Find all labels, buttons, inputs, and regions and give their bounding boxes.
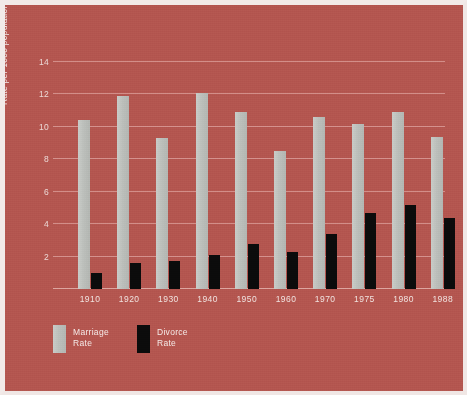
bar-marriage-1920 bbox=[117, 96, 129, 289]
bar-group-1930 bbox=[156, 62, 180, 289]
x-tick-label-1940: 1940 bbox=[197, 294, 218, 304]
x-tick-label-1910: 1910 bbox=[80, 294, 101, 304]
y-tick-label-4: 4 bbox=[44, 219, 49, 229]
bar-divorce-1980 bbox=[405, 205, 416, 289]
bar-divorce-1930 bbox=[169, 261, 180, 289]
marriage-swatch bbox=[53, 325, 66, 353]
bar-divorce-1960 bbox=[287, 252, 298, 289]
divorce-swatch bbox=[137, 325, 150, 353]
x-axis-tick-labels: 1910192019301940195019601970197519801988 bbox=[53, 294, 445, 310]
bar-marriage-1975 bbox=[352, 124, 364, 289]
bar-marriage-1940 bbox=[196, 93, 208, 289]
bar-marriage-1950 bbox=[235, 112, 247, 289]
bar-marriage-1970 bbox=[313, 117, 325, 289]
bar-marriage-1980 bbox=[392, 112, 404, 289]
bar-group-1988 bbox=[431, 62, 455, 289]
bar-divorce-1910 bbox=[91, 273, 102, 289]
x-tick-label-1920: 1920 bbox=[119, 294, 140, 304]
bar-group-1920 bbox=[117, 62, 141, 289]
bar-group-1980 bbox=[392, 62, 416, 289]
bar-group-1975 bbox=[352, 62, 376, 289]
y-tick-label-14: 14 bbox=[39, 57, 49, 67]
x-tick-label-1930: 1930 bbox=[158, 294, 179, 304]
bar-group-1940 bbox=[196, 62, 220, 289]
plot-area bbox=[53, 62, 445, 289]
bar-group-1950 bbox=[235, 62, 259, 289]
x-tick-label-1980: 1980 bbox=[393, 294, 414, 304]
y-axis-tick-labels: 2468101214 bbox=[29, 62, 49, 289]
bar-divorce-1970 bbox=[326, 234, 337, 289]
y-tick-label-8: 8 bbox=[44, 154, 49, 164]
y-tick-label-12: 12 bbox=[39, 89, 49, 99]
x-tick-label-1975: 1975 bbox=[354, 294, 375, 304]
x-tick-label-1970: 1970 bbox=[315, 294, 336, 304]
bar-divorce-1975 bbox=[365, 213, 376, 289]
bar-divorce-1988 bbox=[444, 218, 455, 289]
bar-marriage-1910 bbox=[78, 120, 90, 289]
y-tick-label-6: 6 bbox=[44, 187, 49, 197]
y-tick-label-10: 10 bbox=[39, 122, 49, 132]
legend-item-marriage: Marriage Rate bbox=[53, 325, 109, 353]
legend-label-marriage: Marriage Rate bbox=[73, 325, 109, 349]
bar-group-1960 bbox=[274, 62, 298, 289]
legend-item-divorce: Divorce Rate bbox=[137, 325, 188, 353]
y-axis-title: Rate per 1000 population bbox=[0, 0, 9, 105]
y-tick-label-2: 2 bbox=[44, 252, 49, 262]
bar-marriage-1988 bbox=[431, 137, 443, 289]
legend-label-divorce: Divorce Rate bbox=[157, 325, 188, 349]
marriage-divorce-rate-bar-chart: Rate per 1000 population 2468101214 1910… bbox=[0, 0, 467, 395]
bar-divorce-1950 bbox=[248, 244, 259, 289]
bar-marriage-1930 bbox=[156, 138, 168, 289]
bar-group-1970 bbox=[313, 62, 337, 289]
bar-divorce-1920 bbox=[130, 263, 141, 289]
chart-legend: Marriage RateDivorce Rate bbox=[53, 325, 188, 353]
bar-marriage-1960 bbox=[274, 151, 286, 289]
bar-divorce-1940 bbox=[209, 255, 220, 289]
x-tick-label-1950: 1950 bbox=[236, 294, 257, 304]
bar-group-1910 bbox=[78, 62, 102, 289]
x-tick-label-1960: 1960 bbox=[276, 294, 297, 304]
x-tick-label-1988: 1988 bbox=[432, 294, 453, 304]
